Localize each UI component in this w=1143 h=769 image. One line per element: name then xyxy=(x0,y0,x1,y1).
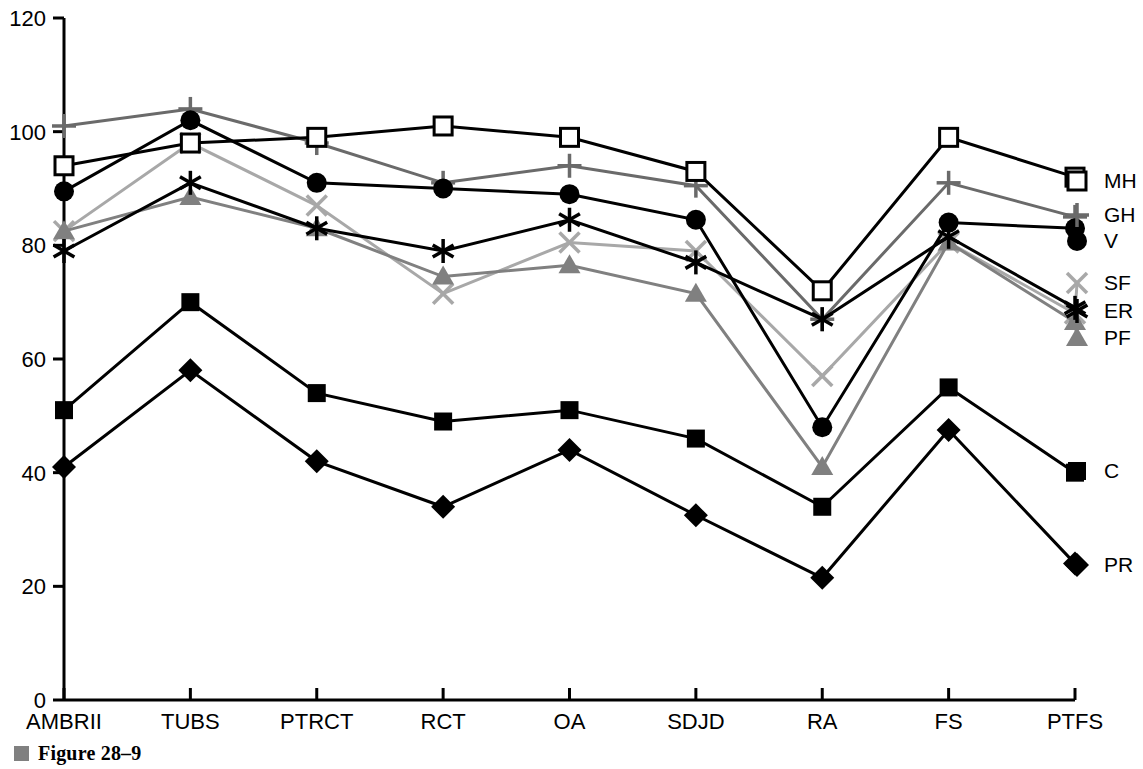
x-axis-tick-label: RCT xyxy=(421,709,466,734)
legend-item-v[interactable]: V xyxy=(1067,229,1118,252)
x-axis-tick-label: PTFS xyxy=(1047,709,1103,734)
legend-label-er: ER xyxy=(1104,299,1133,322)
y-axis-tick-label: 80 xyxy=(22,233,46,258)
caption-bullet-icon xyxy=(14,746,29,761)
x-axis xyxy=(64,688,1075,700)
figure-container: 020406080100120 AMBRIITUBSPTRCTRCTOASDJD… xyxy=(0,0,1143,769)
legend-item-mh[interactable]: MH xyxy=(1068,169,1137,192)
data-series-c xyxy=(55,293,1084,516)
legend-label-c: C xyxy=(1104,459,1119,482)
x-axis-tick-label: AMBRII xyxy=(26,709,102,734)
x-axis-tick-label: TUBS xyxy=(161,709,220,734)
x-axis-tick-labels: AMBRIITUBSPTRCTRCTOASDJDRAFSPTFS xyxy=(26,709,1103,734)
y-axis-tick-label: 120 xyxy=(9,6,46,31)
data-series-group xyxy=(52,97,1087,590)
legend-label-sf: SF xyxy=(1104,271,1131,294)
legend-label-pf: PF xyxy=(1104,326,1131,349)
y-axis-tick-label: 60 xyxy=(22,347,46,372)
x-axis-tick-label: PTRCT xyxy=(280,709,353,734)
legend-label-mh: MH xyxy=(1104,169,1137,192)
legend-label-gh: GH xyxy=(1104,203,1136,226)
x-axis-tick-label: RA xyxy=(807,709,838,734)
x-axis-tick-label: SDJD xyxy=(667,709,724,734)
x-axis-tick-label: OA xyxy=(554,709,586,734)
x-axis-tick-label: FS xyxy=(935,709,963,734)
legend-label-v: V xyxy=(1104,229,1118,252)
figure-caption: Figure 28–9 xyxy=(14,742,142,765)
data-series-pr xyxy=(52,358,1087,589)
y-axis-tick-label: 20 xyxy=(22,574,46,599)
y-axis-tick-label: 100 xyxy=(9,120,46,145)
legend-item-c[interactable]: C xyxy=(1068,459,1119,482)
legend-item-pr[interactable]: PR xyxy=(1065,553,1133,577)
caption-label: Figure 28–9 xyxy=(38,742,142,765)
y-axis-tick-label: 40 xyxy=(22,461,46,486)
legend-item-pf[interactable]: PF xyxy=(1066,326,1131,349)
line-chart: 020406080100120 AMBRIITUBSPTRCTRCTOASDJD… xyxy=(0,0,1143,769)
legend-item-gh[interactable]: GH xyxy=(1065,203,1136,227)
y-axis: 020406080100120 xyxy=(9,6,64,713)
legend-item-er[interactable]: ER xyxy=(1067,299,1134,323)
legend-label-pr: PR xyxy=(1104,553,1133,576)
